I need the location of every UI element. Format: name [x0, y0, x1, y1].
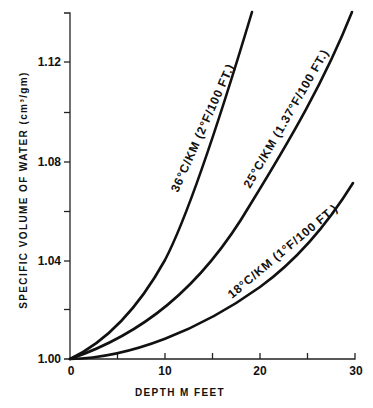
x-ticks — [118, 353, 308, 359]
y-ticks — [64, 62, 70, 310]
x-tick-label: 30 — [349, 364, 363, 378]
label-25c: 25°C/KM (1.37°F/100 FT.) — [240, 47, 331, 191]
x-tick-label: 20 — [253, 364, 267, 378]
specific-volume-chart: 1.00 1.04 1.08 1.12 0 10 20 30 DEPTH M F… — [0, 0, 373, 408]
y-axis-title: SPECIFIC VOLUME OF WATER (cm³/gm) — [18, 71, 29, 309]
x-tick-label: 0 — [68, 364, 75, 378]
y-tick-label: 1.04 — [38, 254, 62, 268]
curve-18c-per-km — [70, 183, 353, 359]
label-36c: 36°C/KM (2°F/100 FT.) — [168, 61, 237, 194]
x-tick-label: 10 — [158, 364, 172, 378]
y-tick-label: 1.12 — [38, 55, 62, 69]
curve-labels: 36°C/KM (2°F/100 FT.) 25°C/KM (1.37°F/10… — [168, 47, 341, 302]
y-axis-line — [64, 13, 70, 359]
y-tick-label: 1.08 — [38, 155, 62, 169]
x-axis-title: DEPTH M FEET — [135, 387, 225, 398]
y-tick-label: 1.00 — [38, 352, 62, 366]
